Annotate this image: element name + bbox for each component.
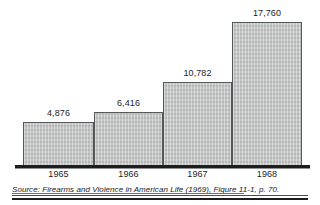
- plot-area: 4,876 6,416 10,782 17,760: [0, 0, 320, 170]
- value-label-1966: 6,416: [94, 98, 163, 109]
- bar-1968: [232, 22, 302, 166]
- footer-rule-thin: [12, 195, 308, 196]
- bar-1965: [23, 122, 94, 166]
- x-axis-category-labels: 1965 1966 1967 1968: [0, 168, 320, 182]
- bar-chart-figure: 4,876 6,416 10,782 17,760 1965 1966 1967…: [0, 0, 320, 205]
- bar-1966: [94, 112, 163, 166]
- value-label-1967: 10,782: [163, 68, 232, 79]
- value-label-1968: 17,760: [232, 8, 302, 19]
- footer-rule-thick: [12, 198, 308, 200]
- x-label-1966: 1966: [94, 168, 163, 181]
- x-label-1967: 1967: [163, 168, 232, 181]
- source-underline: [12, 193, 244, 194]
- bar-1967: [163, 82, 232, 166]
- value-label-1965: 4,876: [23, 108, 94, 119]
- x-label-1965: 1965: [23, 168, 94, 181]
- x-label-1968: 1968: [232, 168, 302, 181]
